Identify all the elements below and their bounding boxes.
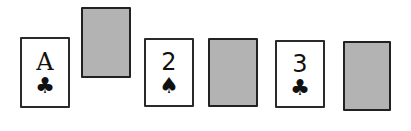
card-rank: A xyxy=(36,50,53,74)
card-ace-of-clubs[interactable]: A ♣ xyxy=(20,37,70,108)
card-table: A ♣ 2 ♠ 3 ♣ xyxy=(0,0,411,131)
card-face-down[interactable] xyxy=(208,38,258,107)
card-two-of-spades[interactable]: 2 ♠ xyxy=(144,38,194,107)
club-icon: ♣ xyxy=(290,77,310,99)
card-rank: 3 xyxy=(292,52,307,76)
spade-icon: ♠ xyxy=(159,75,179,97)
card-face-down[interactable] xyxy=(81,7,131,78)
card-three-of-clubs[interactable]: 3 ♣ xyxy=(275,40,325,108)
card-rank: 2 xyxy=(161,50,176,74)
card-face-down[interactable] xyxy=(343,41,391,111)
club-icon: ♣ xyxy=(35,75,55,97)
